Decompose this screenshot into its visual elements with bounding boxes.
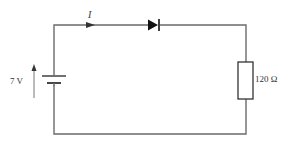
wire-bottom xyxy=(54,85,246,134)
wires xyxy=(54,25,246,134)
circuit-drawing xyxy=(0,0,291,143)
cell-icon xyxy=(42,74,66,86)
wire-top-right xyxy=(160,25,246,62)
diode-icon xyxy=(148,19,159,31)
current-arrow-icon xyxy=(86,22,95,28)
wire-left-top xyxy=(54,25,148,74)
resistor-icon xyxy=(238,62,253,99)
circuit-diagram: I 7 V 120 Ω xyxy=(0,0,291,143)
resistance-label: 120 Ω xyxy=(255,75,277,84)
voltage-arrow-icon xyxy=(32,64,37,98)
current-label: I xyxy=(88,10,91,20)
voltage-label: 7 V xyxy=(10,77,23,86)
